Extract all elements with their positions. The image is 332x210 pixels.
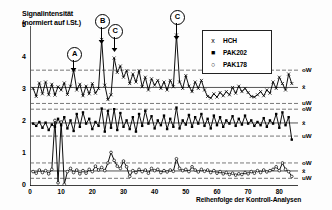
marker-square (238, 118, 240, 120)
marker-circle (119, 167, 122, 170)
marker-square (228, 122, 230, 124)
marker-cross (215, 96, 218, 99)
marker-circle (160, 171, 163, 174)
marker-circle (144, 169, 147, 172)
marker-circle (122, 160, 125, 163)
marker-circle (287, 170, 290, 173)
marker-cross (212, 92, 215, 95)
marker-circle (188, 170, 191, 173)
marker-square (116, 129, 118, 131)
marker-circle (278, 169, 281, 172)
marker-square (269, 119, 271, 121)
marker-square (188, 114, 190, 116)
y-tick-label: 5 (14, 21, 26, 28)
marker-circle (281, 162, 284, 165)
marker-circle (213, 169, 216, 172)
marker-circle (222, 172, 225, 175)
marker-square (82, 111, 84, 113)
marker-square (129, 128, 131, 130)
marker-cross (259, 90, 262, 93)
y-tick-label: 3 (14, 85, 26, 92)
marker-circle (135, 171, 138, 174)
marker-circle (107, 162, 110, 165)
y-tick-label: 4 (14, 53, 26, 60)
annotation-arrow (172, 23, 181, 40)
marker-square (191, 126, 193, 128)
marker-square (104, 130, 106, 132)
marker-square (197, 122, 199, 124)
marker-circle (100, 166, 103, 169)
marker-square (138, 113, 140, 115)
marker-square (275, 113, 277, 115)
marker-circle (269, 169, 272, 172)
marker-square (266, 126, 268, 128)
marker-square (200, 113, 202, 115)
marker-circle (54, 119, 57, 122)
marker-square (213, 114, 215, 116)
marker-square (287, 116, 289, 118)
marker-circle (147, 172, 150, 175)
marker-square (210, 127, 212, 129)
marker-circle (284, 168, 287, 171)
marker-circle (35, 172, 38, 175)
annotation-arrow (97, 27, 106, 44)
marker-circle (206, 169, 209, 172)
marker-square (66, 127, 68, 129)
marker-circle (231, 172, 234, 175)
marker-square (272, 122, 274, 124)
marker-circle (66, 170, 69, 173)
marker-circle (32, 170, 35, 173)
limit-label-oW: oW (302, 159, 311, 166)
marker-circle (82, 169, 85, 172)
x-tick-label: 70 (240, 188, 256, 195)
marker-circle (38, 169, 41, 172)
marker-circle (209, 171, 212, 174)
marker-circle (63, 183, 66, 186)
marker-square (225, 119, 227, 121)
marker-square (284, 124, 286, 126)
marker-circle (191, 165, 194, 168)
marker-circle (156, 168, 159, 171)
marker-square (160, 124, 162, 126)
marker-circle (175, 157, 178, 160)
marker-circle (113, 159, 116, 162)
marker-square (144, 110, 146, 112)
x-tick-label: 10 (53, 188, 69, 195)
marker-square (41, 127, 43, 129)
marker-square (216, 124, 218, 126)
marker-circle (44, 169, 47, 172)
marker-square (63, 116, 65, 118)
marker-square (222, 126, 224, 128)
marker-circle (237, 172, 240, 175)
marker-square (253, 125, 255, 127)
marker-square (44, 121, 46, 123)
marker-circle (272, 168, 275, 171)
marker-circle (197, 171, 200, 174)
marker-circle (94, 165, 97, 168)
marker-circle (128, 175, 131, 178)
marker-square (47, 129, 49, 131)
marker-cross (256, 93, 259, 96)
marker-circle (241, 173, 244, 176)
limit-label-x: x̄ (302, 167, 305, 174)
legend-label-pak178: PAK178 (223, 61, 247, 68)
annotation-arrow (110, 37, 119, 52)
limit-label-x: x̄ (302, 83, 305, 90)
x-tick-label: 40 (147, 188, 163, 195)
marker-circle (256, 169, 259, 172)
marker-circle (234, 174, 237, 177)
marker-cross (222, 94, 225, 97)
marker-cross (247, 91, 250, 94)
x-axis-label: Reihenfolge der Kontroll-Analysen (196, 196, 301, 203)
marker-circle (178, 167, 181, 170)
marker-square (113, 108, 115, 110)
x-tick-label: 30 (115, 188, 131, 195)
marker-square (281, 111, 283, 113)
marker-square (69, 119, 71, 121)
marker-circle (172, 170, 175, 173)
legend-symbol-hch: x (209, 37, 217, 44)
y-tick-label: 0 (14, 181, 26, 188)
marker-square (181, 119, 183, 121)
y-axis-label: Signalintensität (normiert auf i.St.) (22, 9, 142, 27)
marker-circle (184, 168, 187, 171)
